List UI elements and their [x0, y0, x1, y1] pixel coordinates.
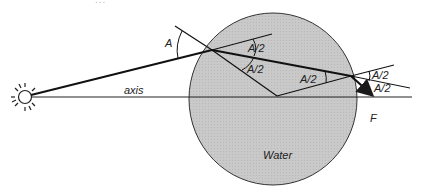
exit-angle-arc: [369, 71, 370, 81]
label-half-angle-exit-2: A/2: [374, 83, 391, 94]
label-half-angle-2: A/2: [247, 64, 264, 75]
label-axis: axis: [124, 85, 144, 96]
entry-normal-outer: [175, 26, 212, 50]
angle-a-arc: [177, 31, 182, 58]
label-half-angle-exit-1: A/2: [372, 70, 389, 81]
label-focus: F: [370, 113, 377, 124]
caption-text: ...: [95, 0, 106, 5]
incident-ray: [31, 50, 212, 95]
label-half-angle-3: A/2: [300, 74, 317, 85]
label-water: Water: [263, 150, 292, 161]
droplet-diagram: [0, 0, 421, 193]
label-angle-a: A: [165, 38, 172, 49]
sun-icon: [11, 83, 35, 111]
label-half-angle-1: A/2: [248, 43, 265, 54]
